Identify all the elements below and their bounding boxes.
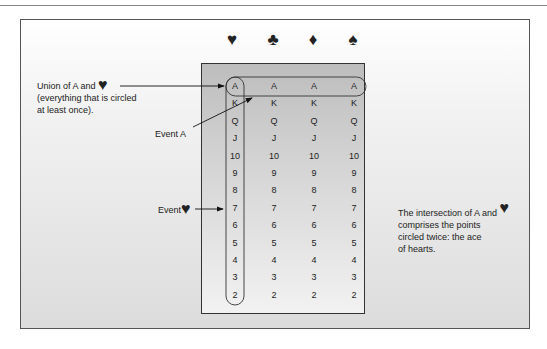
event-a-oval [226, 77, 366, 96]
event-a-label: Event A [155, 128, 186, 140]
annotation-overlay [0, 0, 547, 349]
union-label: Union of A and ♥ (everything that is cir… [37, 79, 137, 116]
union-label-line1: Union of A and [37, 81, 96, 91]
intersection-label-line3: circled twice: the ace [398, 231, 538, 243]
intersection-label-line2: comprises the points [398, 219, 538, 231]
union-label-line2: (everything that is circled [37, 92, 137, 104]
intersection-label-line1: The intersection of A and [398, 208, 497, 218]
intersection-label: The intersection of A and ♥ comprises th… [398, 206, 538, 255]
event-hearts-oval [226, 77, 244, 305]
event-hearts-label: Event♥ [158, 203, 191, 216]
heart-icon: ♥ [500, 199, 510, 216]
heart-icon: ♥ [98, 76, 108, 93]
event-hearts-text: Event [158, 205, 181, 215]
heart-icon: ♥ [181, 200, 191, 217]
union-label-line3: at least once). [37, 104, 137, 116]
event-a-arrow [193, 98, 252, 127]
intersection-label-line4: of hearts. [398, 243, 538, 255]
